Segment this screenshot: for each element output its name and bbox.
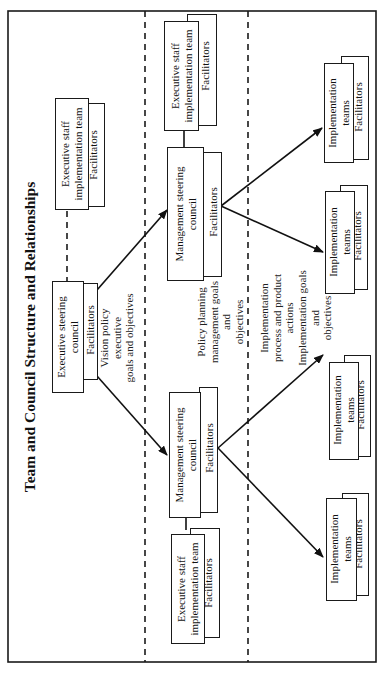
mgmt-lower-facilitators: Facilitators (203, 423, 216, 473)
management-band-note: Policy planning management goals and obj… (195, 281, 246, 363)
mgmt-council-lower-label: Management steering council (173, 408, 198, 503)
mgmt-council-upper-label: Management steering council (173, 167, 198, 262)
diagram-title: Team and Council Structure and Relations… (21, 182, 39, 493)
arrow-exec-to-mgmt-upper (97, 210, 167, 290)
exec-staff-team-upper-label: Executive staff implementation team (169, 29, 194, 122)
exec-staff-upper-facilitators: Facilitators (199, 41, 212, 91)
arrow-exec-to-mgmt-lower (97, 376, 167, 455)
exec-steering-council-label: Executive steering council (55, 296, 80, 378)
executive-band-note: Vision policy executive goals and object… (98, 293, 136, 382)
implementation-band-note: Implementation process and product actio… (258, 270, 334, 366)
impl-team-1-label: Implementation teams (326, 78, 351, 148)
arrow-mgmt-upper-to-impl-2 (221, 206, 323, 252)
arrow-mgmt-upper-to-impl-1 (221, 128, 322, 206)
exec-staff-team-top-label: Executive staff implementation team (59, 107, 84, 200)
impl-team-4-label: Implementation teams (328, 514, 353, 584)
impl-team-2-label: Implementation teams (327, 207, 352, 277)
impl-team-3-label: Implementation teams (331, 375, 356, 445)
mgmt-upper-facilitators: Facilitators (207, 187, 220, 237)
arrow-mgmt-lower-to-impl-4 (218, 448, 323, 557)
arrow-mgmt-lower-to-impl-3 (218, 355, 323, 448)
exec-staff-team-lower-label: Executive staff implementation team (175, 542, 200, 635)
diagram-stage: Team and Council Structure and Relations… (0, 0, 386, 674)
exec-council-facilitators: Facilitators (84, 305, 97, 355)
